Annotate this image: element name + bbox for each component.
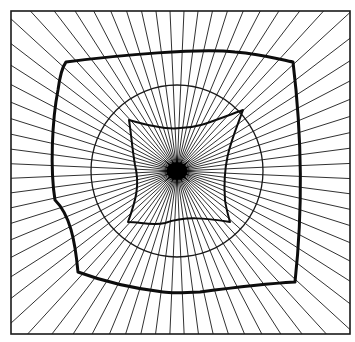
- ray-line: [177, 171, 262, 334]
- ray-line: [11, 85, 177, 171]
- ray-line: [177, 11, 227, 171]
- ray-line: [11, 171, 177, 223]
- ray-line: [177, 171, 350, 330]
- ray-line: [177, 171, 326, 334]
- center-blot-core: [167, 162, 188, 180]
- ray-line: [92, 171, 177, 334]
- ray-line: [177, 11, 260, 171]
- ray-line: [127, 11, 177, 171]
- center-convergence-blot: [158, 155, 196, 188]
- ray-line: [11, 65, 177, 171]
- ray-line: [177, 171, 281, 334]
- ray-line: [177, 11, 324, 171]
- ray-line: [177, 171, 245, 334]
- ray-line: [177, 12, 350, 171]
- ray-line: [94, 11, 177, 171]
- ray-line: [28, 171, 177, 334]
- ray-line: [73, 171, 177, 334]
- ray-line: [11, 102, 177, 171]
- ray-line: [177, 61, 350, 171]
- ray-line: [177, 171, 350, 261]
- ray-diagram: [0, 0, 355, 342]
- ray-line: [177, 171, 350, 226]
- ray-line: [177, 81, 350, 171]
- ray-line: [11, 171, 177, 240]
- ray-line: [11, 171, 177, 257]
- ray-line: [109, 171, 177, 334]
- ray-line: [177, 99, 350, 171]
- ray-line: [177, 171, 350, 281]
- ray-line: [177, 171, 350, 243]
